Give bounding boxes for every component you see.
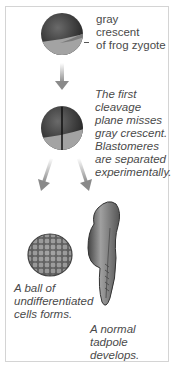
tadpole bbox=[84, 198, 124, 310]
frog-zygote bbox=[40, 12, 84, 56]
cleavage-caption: The first cleavage plane misses gray cre… bbox=[95, 88, 172, 179]
pointer-line bbox=[84, 42, 89, 43]
arrow-down-right-icon bbox=[76, 158, 92, 192]
tadpole-caption: A normal tadpole develops. bbox=[90, 323, 139, 362]
two-cell-embryo bbox=[40, 105, 84, 151]
ball-caption: A ball of undifferentiated cells forms. bbox=[14, 282, 93, 321]
ball-of-cells bbox=[26, 232, 74, 278]
arrow-down-icon bbox=[55, 63, 69, 91]
arrow-down-left-icon bbox=[38, 158, 54, 192]
zygote-label: gray crescent of frog zygote bbox=[96, 13, 166, 52]
